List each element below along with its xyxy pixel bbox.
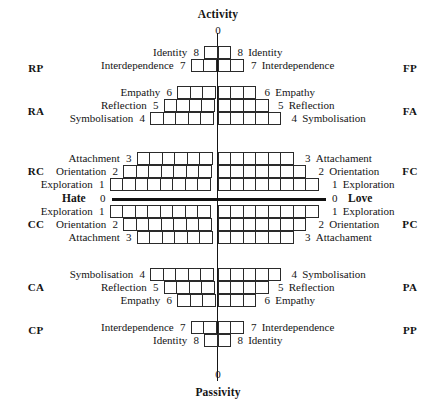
grid-cell (230, 152, 244, 165)
row-label-right: Orientation (329, 218, 379, 231)
grid-cell (218, 112, 232, 125)
grid-cell (204, 334, 218, 347)
grid-cell (160, 205, 174, 218)
grid-cell (189, 281, 203, 294)
grid-cell (135, 178, 149, 191)
grid-cell (123, 218, 137, 231)
grid-cell (218, 231, 232, 244)
row-level-right: 2 (314, 218, 328, 231)
grid-row-left (204, 334, 217, 347)
row-label-left: Orientation (56, 165, 106, 178)
row-label-left: Symbolisation (70, 112, 134, 125)
quadrant-code-pa: PA (390, 281, 430, 293)
row-level-right: 2 (314, 165, 328, 178)
grid-row-right (218, 321, 243, 334)
grid-cell (280, 205, 294, 218)
row-level-right: 4 (287, 112, 301, 125)
row-label-right: Identity (248, 334, 282, 347)
grid-cell (150, 268, 164, 281)
grid-cell (268, 178, 282, 191)
grid-cell (136, 218, 150, 231)
row-label-right: Reflection (289, 99, 335, 112)
grid-cell (243, 165, 257, 178)
grid-cell (280, 178, 294, 191)
grid-cell (230, 165, 244, 178)
grid-cell (218, 205, 232, 218)
grid-cell (110, 205, 124, 218)
row-level-left: 2 (108, 165, 122, 178)
grid-row-left (123, 165, 211, 178)
grid-cell (230, 112, 244, 125)
grid-cell (163, 268, 177, 281)
row-level-right: 3 (301, 152, 315, 165)
grid-cell (243, 86, 257, 99)
row-level-left: 3 (122, 152, 136, 165)
axis-label-hate: Hate (62, 192, 86, 204)
grid-cell (198, 165, 212, 178)
grid-row-left (164, 281, 214, 294)
grid-cell (255, 281, 269, 294)
grid-cell (110, 178, 124, 191)
grid-cell (162, 152, 176, 165)
grid-cell (218, 268, 232, 281)
row-level-left: 1 (95, 205, 109, 218)
grid-cell (162, 231, 176, 244)
row-level-right: 5 (274, 281, 288, 294)
row-label-right: Interdependence (262, 59, 335, 72)
grid-cell (160, 178, 174, 191)
grid-cell (149, 152, 163, 165)
grid-cell (293, 205, 307, 218)
grid-cell (175, 112, 189, 125)
grid-cell (189, 99, 203, 112)
row-label-right: Exploration (343, 178, 395, 191)
grid-cell (230, 218, 244, 231)
grid-cell (201, 281, 215, 294)
grid-cell (230, 178, 244, 191)
grid-cell (305, 178, 319, 191)
row-level-left: 7 (176, 59, 190, 72)
row-label-right: Interdependence (262, 321, 335, 334)
grid-cell (173, 218, 187, 231)
quadrant-code-fc: FC (390, 165, 430, 177)
row-label-left: Interdependence (101, 321, 174, 334)
grid-cell (204, 46, 218, 59)
grid-row-right (218, 99, 268, 112)
grid-cell (280, 165, 294, 178)
grid-cell (243, 268, 257, 281)
grid-cell (218, 294, 232, 307)
quadrant-code-pc: PC (390, 218, 430, 230)
grid-cell (172, 205, 186, 218)
grid-cell (255, 231, 269, 244)
row-label-right: Symbolisation (302, 112, 366, 125)
grid-cell (243, 178, 257, 191)
quadrant-code-cp: CP (16, 324, 56, 336)
quadrant-code-rc: RC (16, 165, 56, 177)
grid-cell (230, 86, 244, 99)
grid-cell (147, 205, 161, 218)
row-label-left: Reflection (101, 99, 147, 112)
quadrant-code-fp: FP (390, 62, 430, 74)
grid-cell (268, 112, 282, 125)
axis-zero-right: 0 (332, 192, 338, 204)
grid-row-left (164, 99, 214, 112)
grid-row-left (137, 152, 212, 165)
grid-cell (218, 281, 232, 294)
row-label-left: Reflection (101, 281, 147, 294)
row-level-right: 7 (247, 59, 261, 72)
grid-cell (218, 46, 232, 59)
grid-cell (185, 178, 199, 191)
grid-cell (174, 231, 188, 244)
grid-row-left (204, 46, 217, 59)
grid-cell (136, 165, 150, 178)
grid-cell (187, 152, 201, 165)
grid-row-left (137, 231, 212, 244)
grid-cell (218, 218, 232, 231)
grid-cell (203, 321, 217, 334)
grid-cell (243, 99, 257, 112)
grid-row-left (123, 218, 211, 231)
row-label-left: Orientation (56, 218, 106, 231)
grid-cell (218, 59, 232, 72)
grid-cell (280, 231, 294, 244)
grid-cell (293, 165, 307, 178)
quadrant-code-fa: FA (390, 105, 430, 117)
